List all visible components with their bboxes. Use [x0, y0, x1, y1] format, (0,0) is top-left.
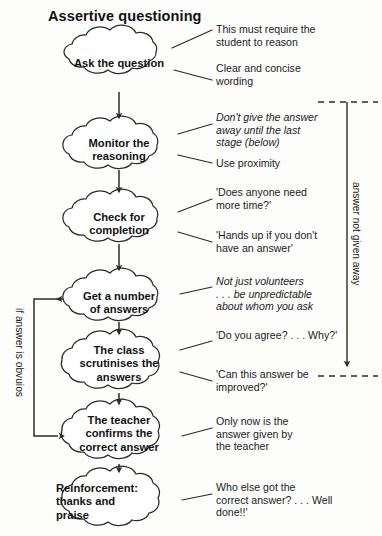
- loop-label-if-answer-is-obvious: if answer is obvuios: [14, 308, 25, 397]
- leader-lines: [172, 30, 212, 500]
- cloud-check[interactable]: [63, 189, 158, 241]
- cloud-reinforcement[interactable]: [61, 466, 159, 525]
- cloud-shapes: [61, 25, 159, 525]
- leader-a7: [180, 287, 212, 294]
- cloud-scrutinise[interactable]: [61, 329, 159, 388]
- leader-a9: [180, 372, 212, 381]
- leader-a2: [174, 70, 212, 80]
- cloud-monitor[interactable]: [63, 116, 158, 168]
- loop-path-getanswers-to-confirm: [34, 299, 63, 436]
- annotation-do-you-agree: 'Do you agree? . . . Why?': [216, 329, 352, 342]
- cloud-getanswers[interactable]: [63, 268, 158, 320]
- annotation-can-this-be-improved: 'Can this answer be improved?': [216, 368, 340, 393]
- leader-a1: [172, 30, 212, 48]
- leader-a3: [178, 124, 212, 134]
- annotation-only-now-is-answer: Only now is the answer given by the teac…: [216, 415, 340, 453]
- cloud-ask[interactable]: [64, 25, 157, 73]
- cloud-confirm[interactable]: [61, 399, 159, 458]
- leader-a11: [182, 494, 212, 500]
- annotation-hands-up: 'Hands up if you don't have an answer': [216, 229, 344, 254]
- leader-a4: [178, 155, 212, 163]
- leader-a10: [182, 428, 212, 436]
- annotation-who-else-got: Who else got the correct answer? . . . W…: [216, 481, 350, 519]
- annotation-use-proximity: Use proximity: [216, 157, 340, 170]
- bracket-label-answer-not-given-away: answer not given away: [351, 182, 362, 286]
- annotation-not-just-volunteers: Not just volunteers . . . be unpredictab…: [216, 275, 346, 313]
- annotation-must-require-reason: This must require the student to reason: [216, 23, 340, 48]
- leader-a6: [178, 232, 212, 242]
- leader-a5: [178, 199, 212, 212]
- leader-a8: [180, 341, 212, 350]
- annotation-does-anyone-need: 'Does anyone need more time?': [216, 186, 340, 211]
- diagram-canvas: Assertive questioning Ask the question M…: [0, 0, 382, 536]
- annotation-dont-give-answer: Don't give the answer away until the las…: [216, 111, 344, 149]
- feedback-loop: [34, 299, 63, 436]
- page-title: Assertive questioning: [48, 8, 202, 24]
- annotation-clear-concise: Clear and concise wording: [216, 62, 340, 87]
